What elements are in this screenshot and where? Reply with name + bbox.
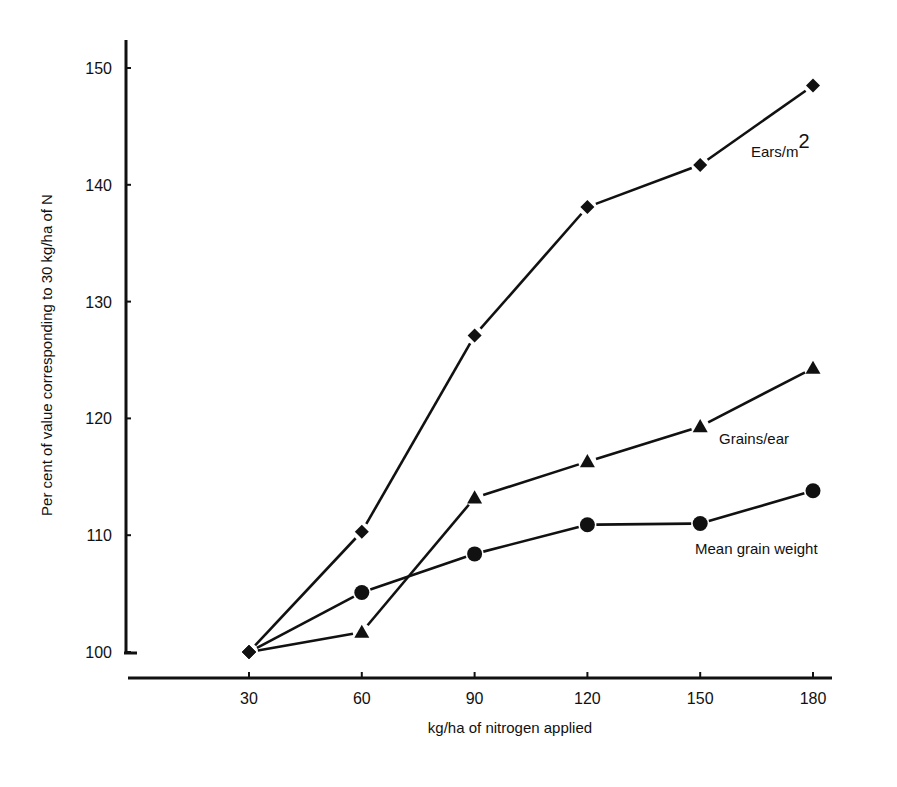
series-segment xyxy=(366,343,470,524)
series-segment xyxy=(596,168,692,204)
series-segment xyxy=(483,464,579,495)
y-tick-label: 130 xyxy=(85,294,112,311)
triangle-marker xyxy=(467,490,482,503)
y-tick-label: 100 xyxy=(85,644,112,661)
series-segment xyxy=(483,527,578,552)
triangle-marker xyxy=(580,454,595,467)
series-label-ears-sup: 2 xyxy=(799,130,810,152)
x-tick-label: 180 xyxy=(800,690,827,707)
y-tick-label: 120 xyxy=(85,410,112,427)
circle-marker xyxy=(467,546,482,561)
series-label-grain-weight: Mean grain weight xyxy=(695,540,818,557)
x-tick-label: 120 xyxy=(574,690,601,707)
y-axis-title: Per cent of value corresponding to 30 kg… xyxy=(38,194,55,516)
circle-marker xyxy=(693,516,708,531)
y-axis-ticks: 100110120130140150 xyxy=(85,60,131,661)
x-tick-label: 150 xyxy=(687,690,714,707)
triangle-marker xyxy=(806,361,821,374)
series-label-grains: Grains/ear xyxy=(719,430,789,447)
y-tick-label: 140 xyxy=(85,177,112,194)
series-segment xyxy=(596,429,692,459)
triangle-marker xyxy=(693,419,708,432)
triangle-marker xyxy=(354,625,369,638)
diamond-marker xyxy=(468,328,482,342)
diamond-marker xyxy=(242,645,256,659)
series-segment xyxy=(481,214,582,329)
series-segment xyxy=(257,597,354,648)
line-chart: 100110120130140150 306090120150180 Per c… xyxy=(0,0,897,787)
x-axis-title: kg/ha of nitrogen applied xyxy=(428,719,592,736)
series-markers xyxy=(242,79,821,659)
series-label-ears: Ears/m2 xyxy=(751,130,810,160)
diamond-marker xyxy=(355,525,369,539)
series-segment xyxy=(370,557,466,590)
series-segment xyxy=(368,505,469,626)
series-lines xyxy=(255,91,805,651)
x-tick-label: 30 xyxy=(240,690,258,707)
series-segment xyxy=(255,538,355,645)
series-segment xyxy=(596,524,691,525)
x-tick-label: 60 xyxy=(353,690,371,707)
diamond-marker xyxy=(806,79,820,93)
circle-marker xyxy=(354,585,369,600)
x-tick-label: 90 xyxy=(466,690,484,707)
diamond-marker xyxy=(693,158,707,172)
series-label-ears-text: Ears/m xyxy=(751,143,799,160)
y-tick-label: 150 xyxy=(85,60,112,77)
circle-marker xyxy=(806,483,821,498)
y-tick-label: 110 xyxy=(86,527,112,544)
series-segment xyxy=(258,634,353,651)
circle-marker xyxy=(580,517,595,532)
diamond-marker xyxy=(580,200,594,214)
series-segment xyxy=(708,372,805,422)
series-segment xyxy=(709,493,805,521)
